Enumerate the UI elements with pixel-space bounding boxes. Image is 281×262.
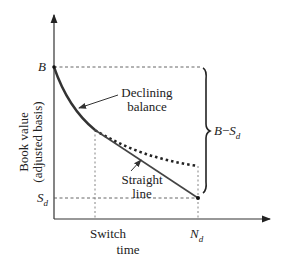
y-axis-label: Book value (adjusted basis) [17,87,45,197]
declining-balance-label: Declining balance [112,86,182,114]
tick-time: time [108,243,148,256]
straight-pointer [131,160,141,171]
start-point [52,65,56,69]
tick-b: B [38,60,46,73]
tick-nd: Nd [190,227,203,244]
end-point [196,196,200,200]
straight-line-label: Straight line [112,173,172,201]
brace-label: B−Sd [214,124,240,141]
brace [203,68,210,193]
declining-balance-dotted [95,130,198,166]
declining-balance-curve [54,67,95,130]
tick-switch: Switch [83,227,133,240]
